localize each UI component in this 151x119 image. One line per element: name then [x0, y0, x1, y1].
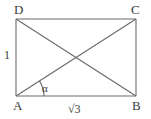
vertex-label-A: A	[13, 99, 22, 112]
vertex-label-C: C	[131, 3, 140, 16]
geometry-figure: D C A B 1 √3 α	[0, 0, 151, 119]
angle-label-alpha: α	[42, 83, 48, 94]
vertex-label-D: D	[14, 3, 23, 16]
vertex-label-B: B	[132, 99, 141, 112]
side-length-label-base: √3	[68, 103, 81, 115]
side-length-label-height: 1	[4, 49, 10, 61]
